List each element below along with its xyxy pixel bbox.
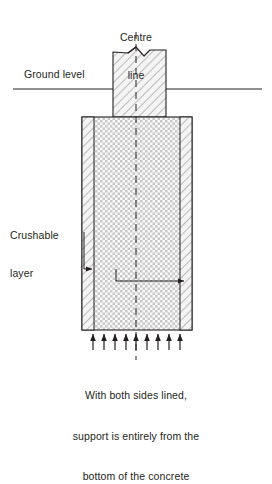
crushable-lining-strip-right [180, 117, 192, 330]
crushable-layer-label-line2: layer [10, 267, 59, 280]
upward-support-arrows [93, 334, 180, 350]
caption-line-1: With both sides lined, [0, 389, 272, 403]
centre-line-label-line1: Centre [0, 31, 272, 44]
buried-concrete-block [82, 117, 192, 330]
figure-caption: With both sides lined, support is entire… [0, 362, 272, 484]
centre-line-label: Centre line [0, 6, 272, 106]
crushable-lining-strip-left [82, 117, 94, 330]
caption-line-3: bottom of the concrete [0, 470, 272, 484]
caption-line-2: support is entirely from the [0, 430, 272, 444]
crushable-layer-label-line1: Crushable [10, 229, 59, 242]
ground-level-label: Ground level [24, 68, 85, 81]
crushable-layer-label: Crushable layer [10, 204, 59, 304]
